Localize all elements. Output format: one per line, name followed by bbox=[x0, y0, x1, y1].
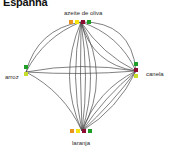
edge-arroz-to-canela bbox=[26, 71, 136, 74]
edge-arroz-to-laranja bbox=[26, 72, 82, 131]
canela-marker-darkred[interactable] bbox=[134, 68, 138, 72]
arroz-marker-green[interactable] bbox=[24, 65, 28, 69]
network-diagram: Espanha azeite de olivaarrozcanelalaranj… bbox=[0, 0, 171, 154]
edge-canela-to-laranja bbox=[82, 71, 136, 131]
arroz-marker-yellowgreen[interactable] bbox=[24, 72, 28, 76]
edge-canela-to-laranja bbox=[82, 71, 136, 131]
laranja-marker-yellow[interactable] bbox=[76, 129, 80, 133]
edge-azeite_de_oliva-to-canela bbox=[81, 22, 136, 71]
node-label-azeite_de_oliva: azeite de oliva bbox=[64, 10, 102, 17]
node-label-canela: canela bbox=[146, 71, 164, 78]
laranja-marker-green[interactable] bbox=[88, 129, 92, 133]
laranja-marker-darkred[interactable] bbox=[82, 129, 86, 133]
edge-azeite_de_oliva-to-canela bbox=[81, 22, 136, 71]
edge-azeite_de_oliva-to-canela bbox=[81, 22, 136, 71]
node-label-laranja: laranja bbox=[72, 140, 90, 147]
azeite_de_oliva-marker-orange[interactable] bbox=[69, 20, 73, 24]
laranja-marker-orange[interactable] bbox=[70, 129, 74, 133]
azeite_de_oliva-marker-darkred[interactable] bbox=[81, 20, 85, 24]
azeite_de_oliva-marker-green[interactable] bbox=[87, 20, 91, 24]
canela-marker-green[interactable] bbox=[134, 62, 138, 66]
edge-azeite_de_oliva-to-laranja bbox=[80, 22, 82, 131]
canela-marker-yellowgreen[interactable] bbox=[134, 74, 138, 78]
edge-canela-to-laranja bbox=[82, 71, 136, 131]
edge-azeite_de_oliva-to-canela bbox=[81, 22, 136, 71]
edge-arroz-to-canela bbox=[26, 66, 136, 72]
azeite_de_oliva-marker-yellow[interactable] bbox=[75, 20, 79, 24]
node-label-arroz: arroz bbox=[5, 74, 19, 81]
edge-canela-to-laranja bbox=[82, 71, 136, 131]
